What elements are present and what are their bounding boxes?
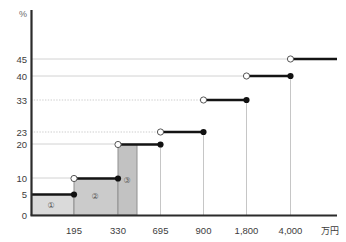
bracket-marker-1: ① [47, 201, 54, 210]
marker-open-40 [243, 73, 249, 79]
x-tick-label-1800: 1,800 [235, 225, 259, 236]
x-axis-unit-label: 万円 [321, 226, 339, 236]
y-axis-unit-label: % [19, 9, 27, 19]
marker-closed-5 [71, 191, 77, 197]
marker-closed-23 [200, 129, 206, 135]
x-axis-labels: 195 330 695 900 1,800 4,000 万円 [66, 225, 339, 236]
marker-closed-33 [243, 97, 249, 103]
step-line [31, 59, 337, 195]
gridlines-vertical [161, 76, 291, 215]
y-tick-label-0: 0 [22, 210, 27, 221]
chart-canvas: % 45 40 33 23 20 10 5 0 195 330 695 900 … [0, 0, 346, 242]
x-tick-label-330: 330 [110, 225, 126, 236]
bracket-marker-2: ② [91, 192, 98, 201]
marker-open-10 [71, 175, 77, 181]
marker-open-45 [287, 56, 293, 62]
marker-closed-20 [157, 141, 163, 147]
marker-open-23 [157, 129, 163, 135]
y-tick-label-33: 33 [16, 95, 27, 106]
tax-rate-chart: % 45 40 33 23 20 10 5 0 195 330 695 900 … [0, 0, 346, 242]
bracket-marker-3: ③ [123, 176, 130, 185]
y-tick-label-5: 5 [22, 189, 27, 200]
marker-open-20 [115, 141, 121, 147]
x-tick-label-4000: 4,000 [279, 225, 303, 236]
x-tick-label-900: 900 [196, 225, 212, 236]
y-axis-labels: % 45 40 33 23 20 10 5 0 [16, 9, 27, 221]
marker-closed-40 [287, 73, 293, 79]
marker-closed-10 [115, 175, 121, 181]
marker-open-33 [200, 97, 206, 103]
y-tick-label-10: 10 [16, 173, 27, 184]
y-tick-label-40: 40 [16, 71, 27, 82]
y-tick-label-45: 45 [16, 54, 27, 65]
y-tick-label-20: 20 [16, 139, 27, 150]
x-tick-label-695: 695 [153, 225, 169, 236]
x-tick-label-195: 195 [66, 225, 82, 236]
y-tick-label-23: 23 [16, 127, 27, 138]
